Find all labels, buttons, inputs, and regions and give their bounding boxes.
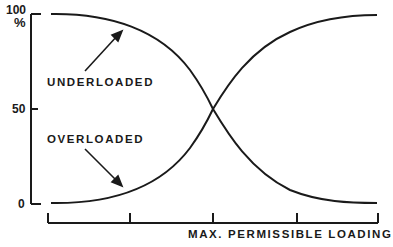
overloaded-curve [51,15,377,203]
overloaded-arrow [85,149,122,186]
underloaded-arrow [85,31,122,71]
overloaded-label: OVERLOADED [47,133,144,145]
underloaded-label: UNDERLOADED [47,76,154,88]
y-axis [31,14,41,204]
x-axis-label: MAX. PERMISSIBLE LOADING [188,228,393,240]
y-tick-label-0: 0 [18,197,25,211]
y-unit-label: % [14,15,26,30]
y-tick-label-50: 50 [12,102,25,116]
x-axis [48,213,378,223]
